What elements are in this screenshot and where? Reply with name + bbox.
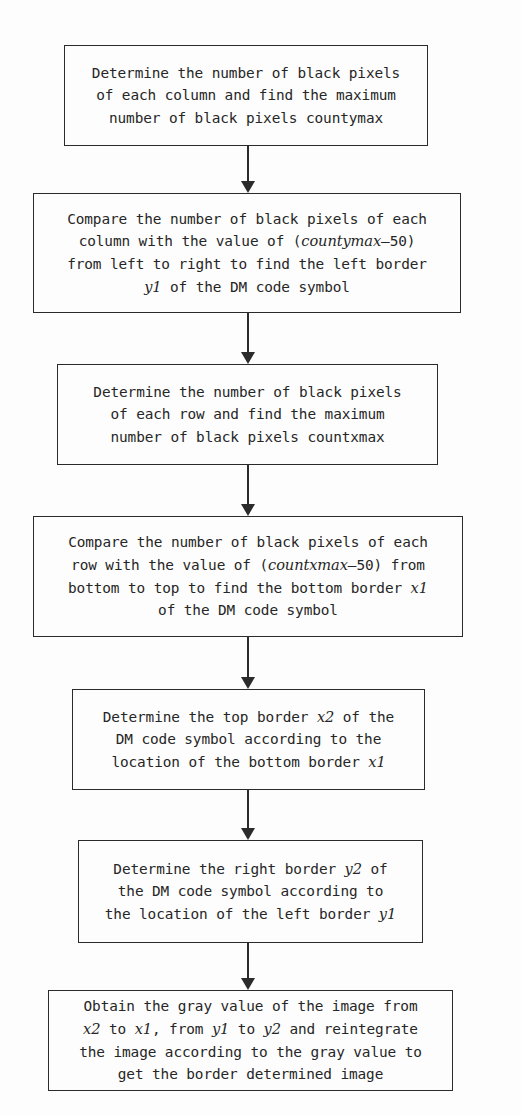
connector-line xyxy=(247,313,249,353)
process-box-determine-right-border-y2: Determine the right border y2 of the DM … xyxy=(78,840,423,943)
flowchart-diagram: Determine the number of black pixels of … xyxy=(0,0,521,1116)
process-box-label: Determine the right border y2 of the DM … xyxy=(79,858,422,926)
connector-4-to-5 xyxy=(247,637,249,689)
connector-6-to-7 xyxy=(247,943,249,990)
arrowhead-down-icon xyxy=(241,828,255,840)
process-box-label: Compare the number of black pixels of ea… xyxy=(34,208,460,298)
arrowhead-down-icon xyxy=(241,352,255,364)
connector-2-to-3 xyxy=(247,313,249,364)
process-box-determine-column-black-pixels: Determine the number of black pixels of … xyxy=(64,45,428,146)
process-box-label: Determine the top border x2 of the DM co… xyxy=(73,706,424,774)
process-box-label: Determine the number of black pixels of … xyxy=(58,381,437,449)
process-box-find-left-border-y1: Compare the number of black pixels of ea… xyxy=(33,193,461,313)
process-box-determine-top-border-x2: Determine the top border x2 of the DM co… xyxy=(72,689,425,790)
arrowhead-down-icon xyxy=(241,677,255,689)
arrowhead-down-icon xyxy=(241,504,255,516)
connector-line xyxy=(247,146,249,182)
connector-line xyxy=(247,790,249,829)
arrowhead-down-icon xyxy=(241,978,255,990)
process-box-find-bottom-border-x1: Compare the number of black pixels of ea… xyxy=(33,516,463,637)
process-box-label: Determine the number of black pixels of … xyxy=(65,62,427,130)
connector-line xyxy=(247,465,249,505)
process-box-obtain-gray-value-reintegrate-image: Obtain the gray value of the image from … xyxy=(48,990,453,1091)
connector-3-to-4 xyxy=(247,465,249,516)
connector-line xyxy=(247,943,249,979)
connector-5-to-6 xyxy=(247,790,249,840)
connector-1-to-2 xyxy=(247,146,249,193)
process-box-label: Obtain the gray value of the image from … xyxy=(49,995,452,1085)
connector-line xyxy=(247,637,249,678)
arrowhead-down-icon xyxy=(241,181,255,193)
process-box-determine-row-black-pixels: Determine the number of black pixels of … xyxy=(57,364,438,465)
process-box-label: Compare the number of black pixels of ea… xyxy=(34,531,462,621)
